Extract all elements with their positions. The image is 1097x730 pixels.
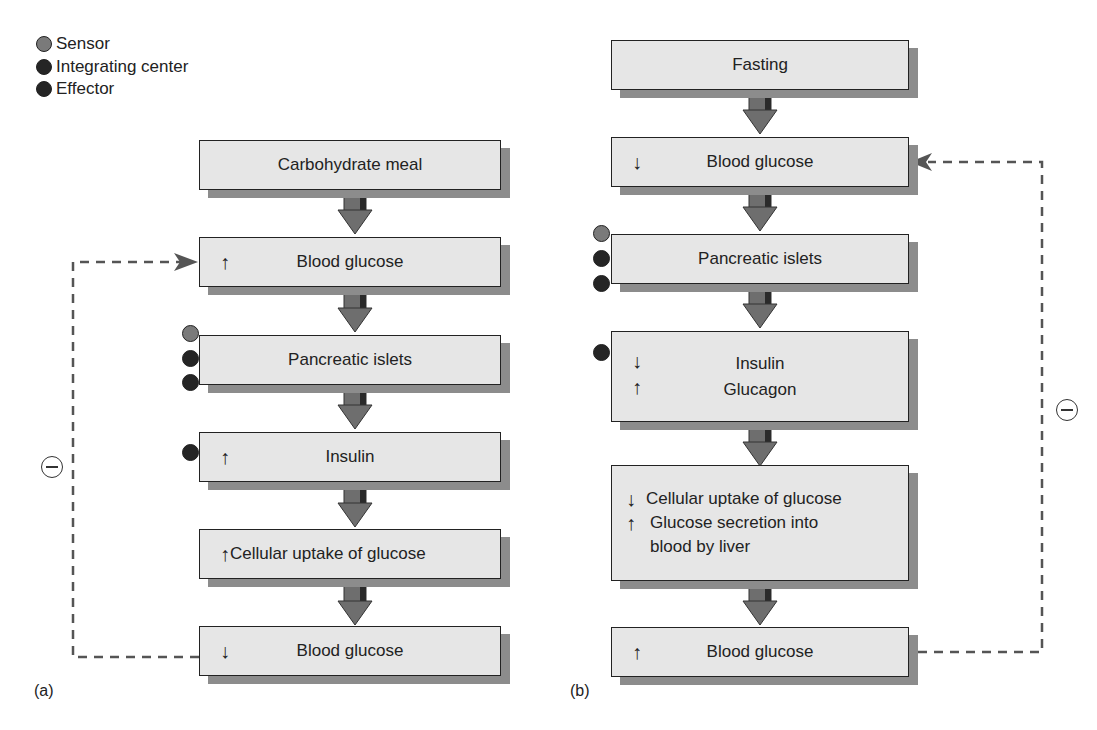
effector-dot-icon: [593, 275, 610, 292]
sensor-dot-icon: [182, 325, 199, 342]
box-fasting: Fasting: [611, 40, 909, 90]
box-blood-glucose-decrease: ↓ Blood glucose: [199, 626, 501, 676]
down-arrow-icon: ↓: [632, 350, 642, 373]
flow-arrow-icon: [338, 287, 372, 332]
box-insulin-glucagon: ↓ ↑ Insulin Glucagon: [611, 331, 909, 422]
up-arrow-icon: ↑: [220, 251, 230, 274]
panel-label-a: (a): [34, 682, 54, 700]
up-arrow-icon: ↑: [632, 376, 642, 399]
effector-dot-icon: [182, 444, 199, 461]
up-arrow-icon: ↑: [626, 511, 650, 535]
down-arrow-icon: ↓: [220, 640, 230, 663]
box-insulin-increase: ↑ Insulin: [199, 432, 501, 482]
effector-dot-icon: [182, 374, 199, 391]
integrating-center-dot-icon: [182, 350, 199, 367]
box-pancreatic-islets: Pancreatic islets: [611, 234, 909, 284]
flow-arrow-icon: [743, 186, 777, 231]
down-arrow-icon: ↓: [632, 151, 642, 174]
box-cellular-uptake-increase: ↑ Cellular uptake of glucose: [199, 529, 501, 579]
box-blood-glucose-increase: ↑ Blood glucose: [611, 627, 909, 677]
down-arrow-icon: ↓: [626, 487, 646, 511]
flow-arrow-icon: [743, 89, 777, 134]
integrating-center-dot-icon: [593, 250, 610, 267]
sensor-dot-icon: [593, 225, 610, 242]
up-arrow-icon: ↑: [220, 446, 230, 469]
up-arrow-icon: ↑: [632, 641, 642, 664]
flow-arrow-icon: [338, 580, 372, 625]
flow-arrow-icon: [338, 384, 372, 429]
flow-arrow-icon: [338, 482, 372, 527]
box-carbohydrate-meal: Carbohydrate meal: [199, 140, 501, 190]
box-blood-glucose-increase: ↑ Blood glucose: [199, 237, 501, 287]
box-cellular-uptake-glucose-secretion: ↓Cellular uptake of glucose ↑Glucose sec…: [611, 465, 909, 581]
negative-feedback-icon: [41, 456, 63, 478]
connectors: [0, 0, 1097, 730]
box-pancreatic-islets: Pancreatic islets: [199, 335, 501, 385]
flow-arrow-icon: [743, 580, 777, 625]
flow-arrow-icon: [338, 189, 372, 234]
box-blood-glucose-decrease: ↓ Blood glucose: [611, 137, 909, 187]
flow-arrow-icon: [743, 421, 777, 466]
panel-label-b: (b): [570, 682, 590, 700]
flow-arrow-icon: [743, 283, 777, 328]
effector-dot-icon: [593, 344, 610, 361]
up-arrow-icon: ↑: [220, 543, 230, 566]
negative-feedback-icon: [1056, 399, 1078, 421]
